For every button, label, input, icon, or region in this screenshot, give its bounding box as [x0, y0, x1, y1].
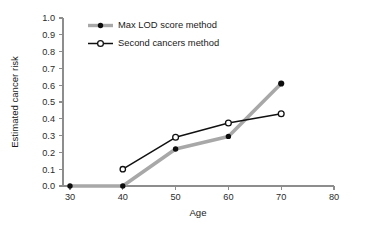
- y-tick-label: 0.3: [42, 131, 55, 141]
- y-tick-label: 0.2: [42, 148, 55, 158]
- x-axis-ticks: 30 40 50 60 70 80: [65, 186, 339, 202]
- y-axis-title: Estimated cancer risk: [9, 56, 20, 148]
- legend-marker-open-circle: [98, 41, 104, 47]
- data-point: [173, 146, 178, 151]
- y-tick-label: 1.0: [42, 13, 55, 23]
- legend-label: Second cancers method: [118, 37, 219, 48]
- chart-figure: 1.0 0.9 0.8 0.7 0.6 0.5 0.4 0.3 0.2 0.1 …: [0, 0, 367, 226]
- x-tick-label: 80: [329, 192, 339, 202]
- x-axis-title: Age: [189, 207, 206, 218]
- legend-item-second-cancers-method: Second cancers method: [88, 37, 219, 48]
- y-tick-label: 0.9: [42, 30, 55, 40]
- data-point: [120, 167, 125, 172]
- data-point: [226, 134, 231, 139]
- y-axis-ticks: 1.0 0.9 0.8 0.7 0.6 0.5 0.4 0.3 0.2 0.1 …: [42, 13, 63, 191]
- x-tick-label: 30: [65, 192, 75, 202]
- y-tick-label: 0.8: [42, 47, 55, 57]
- legend-marker-filled-circle: [98, 23, 103, 28]
- y-tick-label: 0.4: [42, 114, 55, 124]
- y-tick-label: 0.7: [42, 64, 55, 74]
- y-tick-label: 0.6: [42, 81, 55, 91]
- x-tick-label: 50: [170, 192, 180, 202]
- data-point: [67, 183, 72, 188]
- legend-item-max-lod-score-method: Max LOD score method: [88, 19, 217, 30]
- line-chart: 1.0 0.9 0.8 0.7 0.6 0.5 0.4 0.3 0.2 0.1 …: [0, 0, 367, 226]
- data-point: [120, 183, 125, 188]
- data-point: [278, 111, 284, 117]
- y-tick-label: 0.1: [42, 165, 55, 175]
- y-tick-label: 0.0: [42, 181, 55, 191]
- y-tick-label: 0.5: [42, 97, 55, 107]
- x-tick-label: 40: [118, 192, 128, 202]
- data-point: [226, 120, 232, 126]
- x-tick-label: 70: [276, 192, 286, 202]
- data-point: [173, 134, 179, 140]
- chart-legend: Max LOD score method Second cancers meth…: [88, 19, 219, 48]
- x-tick-label: 60: [223, 192, 233, 202]
- data-point: [278, 80, 284, 86]
- legend-label: Max LOD score method: [118, 19, 217, 30]
